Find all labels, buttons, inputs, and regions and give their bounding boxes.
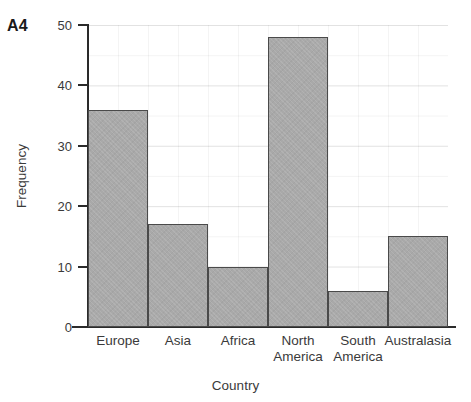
x-axis-title: Country [0, 378, 471, 393]
y-tick-mark [78, 24, 88, 26]
y-tick-mark [78, 84, 88, 86]
bar [88, 110, 148, 327]
y-tick-mark [78, 205, 88, 207]
y-tick-label: 50 [14, 18, 72, 33]
y-axis-title: Frequency [14, 144, 29, 208]
bar [328, 291, 388, 327]
y-tick-mark [78, 266, 88, 268]
y-tick-label: 40 [14, 78, 72, 93]
bar [148, 224, 208, 327]
bar [268, 37, 328, 327]
bar [388, 236, 448, 327]
y-tick-label: 10 [14, 259, 72, 274]
y-tick-mark [78, 145, 88, 147]
y-tick-mark [78, 326, 88, 328]
x-tick-label: Australasia [373, 333, 463, 349]
y-tick-label: 0 [14, 320, 72, 335]
bar [208, 267, 268, 327]
plot-area [88, 25, 448, 327]
